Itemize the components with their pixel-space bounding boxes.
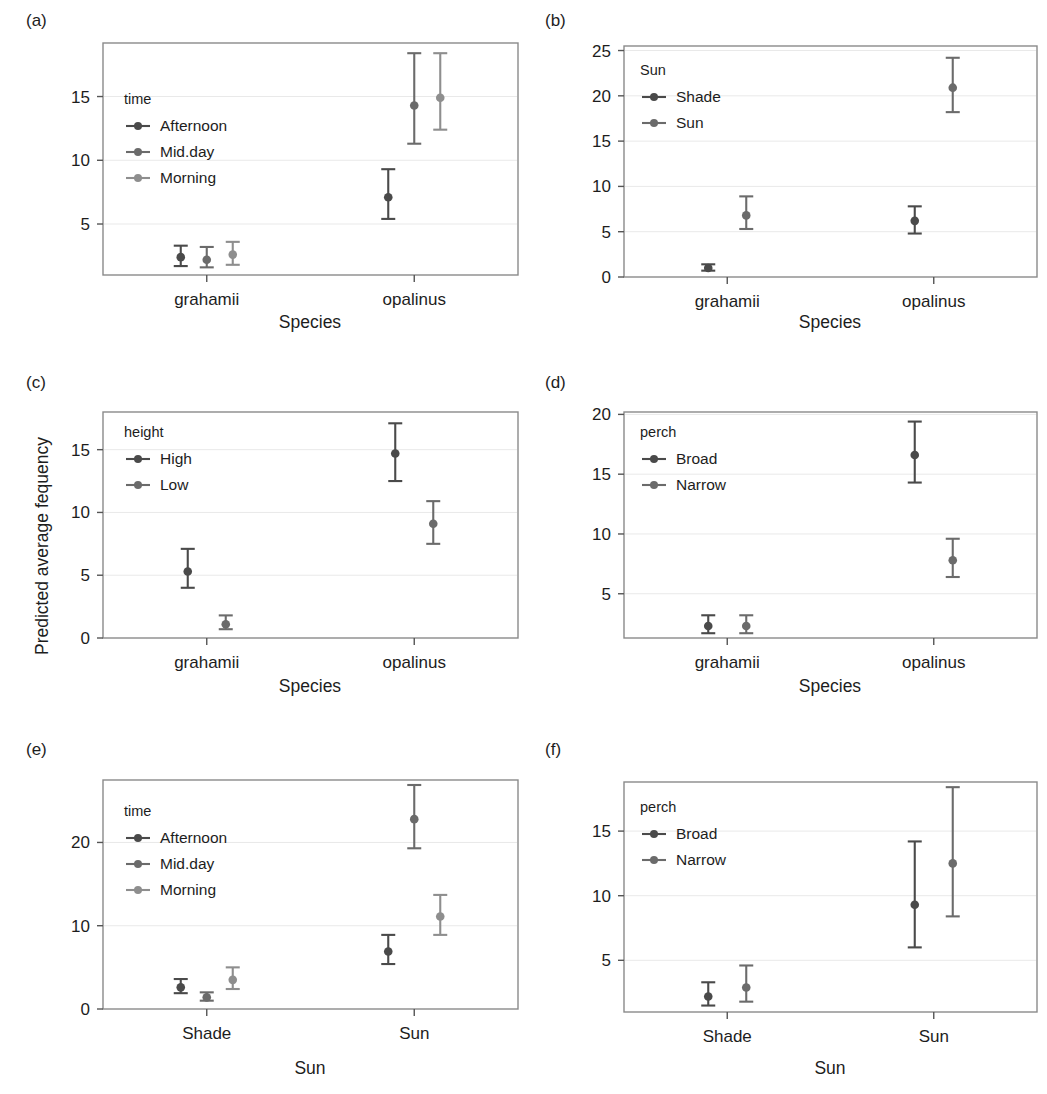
legend-marker-dot [650, 830, 658, 838]
data-point-marker [742, 622, 751, 631]
panel-label: (a) [26, 11, 47, 30]
data-point-marker [436, 912, 445, 921]
legend-marker-dot [134, 886, 142, 894]
data-point-marker [704, 622, 713, 631]
data-point-marker [176, 253, 185, 262]
legend-title: time [124, 91, 151, 107]
data-point-marker [176, 983, 185, 992]
y-tick-label: 5 [602, 951, 611, 970]
data-point-marker [228, 976, 237, 985]
y-tick-label: 10 [592, 177, 611, 196]
legend-marker-dot [134, 481, 142, 489]
x-tick-label: opalinus [383, 290, 446, 309]
data-point-marker [948, 556, 957, 565]
legend-title: time [124, 803, 151, 819]
legend-marker-dot [650, 93, 658, 101]
plot-background [103, 412, 518, 638]
y-tick-label: 15 [71, 88, 90, 107]
legend-marker-dot [134, 860, 142, 868]
data-point-marker [948, 859, 957, 868]
legend-entry-label: Narrow [676, 851, 727, 868]
legend-marker-dot [134, 174, 142, 182]
legend-marker-dot [650, 856, 658, 864]
y-tick-label: 15 [592, 132, 611, 151]
panel-label: (c) [26, 373, 46, 392]
y-tick-label: 5 [602, 223, 611, 242]
data-point-marker [704, 992, 713, 1001]
legend-marker-dot [134, 455, 142, 463]
data-point-marker [183, 567, 192, 576]
data-point-marker [228, 250, 237, 259]
data-point-marker [948, 83, 957, 92]
legend-title: height [124, 424, 164, 440]
legend-entry-label: Afternoon [160, 829, 227, 846]
legend-entry-label: Sun [676, 114, 704, 131]
figure-canvas: (a)51015grahamiiopalinusSpeciestimeAfter… [0, 0, 1047, 1094]
x-tick-label: grahamii [174, 290, 239, 309]
x-tick-label: opalinus [383, 653, 446, 672]
y-tick-label: 15 [71, 441, 90, 460]
legend-title: Sun [640, 62, 666, 78]
data-point-marker [704, 264, 713, 273]
data-point-marker [202, 993, 211, 1002]
panel-label: (e) [26, 740, 47, 759]
y-tick-label: 10 [71, 917, 90, 936]
x-axis-title: Species [279, 676, 342, 696]
data-point-marker [429, 519, 438, 528]
data-point-marker [410, 101, 419, 110]
data-point-marker [910, 900, 919, 909]
legend-entry-label: Morning [160, 881, 216, 898]
x-tick-label: grahamii [695, 653, 760, 672]
legend-entry-label: High [160, 450, 192, 467]
legend-title: perch [640, 799, 676, 815]
y-tick-label: 10 [592, 887, 611, 906]
legend-entry-label: Broad [676, 825, 717, 842]
data-point-marker [436, 94, 445, 103]
x-tick-label: Shade [703, 1027, 752, 1046]
data-point-marker [742, 211, 751, 220]
panel-plot-e: (e)01020ShadeSunSuntimeAfternoonMid.dayM… [26, 740, 518, 1078]
data-point-marker [384, 947, 393, 956]
x-axis-title: Species [279, 312, 342, 332]
panel-label: (f) [545, 740, 561, 759]
x-tick-label: grahamii [695, 292, 760, 311]
x-tick-label: opalinus [902, 653, 965, 672]
data-point-marker [202, 255, 211, 264]
legend-marker-dot [650, 455, 658, 463]
data-point-marker [221, 620, 230, 629]
x-tick-label: grahamii [174, 653, 239, 672]
data-point-marker [910, 451, 919, 460]
data-point-marker [910, 217, 919, 226]
figure-multi-panel: Predicted average fequency (a)51015graha… [0, 0, 1047, 1094]
y-tick-label: 5 [602, 585, 611, 604]
x-axis-title: Species [799, 312, 862, 332]
plot-background [624, 412, 1037, 638]
panel-plot-d: (d)5101520grahamiiopalinusSpeciesperchBr… [545, 373, 1037, 696]
legend-entry-label: Shade [676, 88, 721, 105]
legend-entry-label: Afternoon [160, 117, 227, 134]
legend-entry-label: Mid.day [160, 143, 215, 160]
panel-label: (b) [545, 11, 566, 30]
y-tick-label: 10 [71, 151, 90, 170]
legend-marker-dot [134, 148, 142, 156]
panel-plot-c: (c)051015grahamiiopalinusSpeciesheightHi… [26, 373, 518, 696]
legend-marker-dot [650, 119, 658, 127]
panel-plot-a: (a)51015grahamiiopalinusSpeciestimeAfter… [26, 11, 518, 332]
y-tick-label: 20 [592, 405, 611, 424]
y-tick-label: 15 [592, 822, 611, 841]
x-axis-title: Sun [294, 1058, 325, 1078]
x-axis-title: Species [799, 676, 862, 696]
y-tick-label: 10 [592, 525, 611, 544]
y-tick-label: 20 [71, 833, 90, 852]
data-point-marker [391, 449, 400, 458]
panel-plot-b: (b)0510152025grahamiiopalinusSpeciesSunS… [545, 11, 1037, 332]
x-tick-label: Sun [399, 1024, 429, 1043]
y-tick-label: 15 [592, 465, 611, 484]
y-tick-label: 0 [602, 268, 611, 287]
y-tick-label: 10 [71, 503, 90, 522]
data-point-marker [742, 983, 751, 992]
legend-entry-label: Mid.day [160, 855, 215, 872]
legend-title: perch [640, 424, 676, 440]
y-tick-label: 5 [81, 215, 90, 234]
y-tick-label: 5 [81, 566, 90, 585]
